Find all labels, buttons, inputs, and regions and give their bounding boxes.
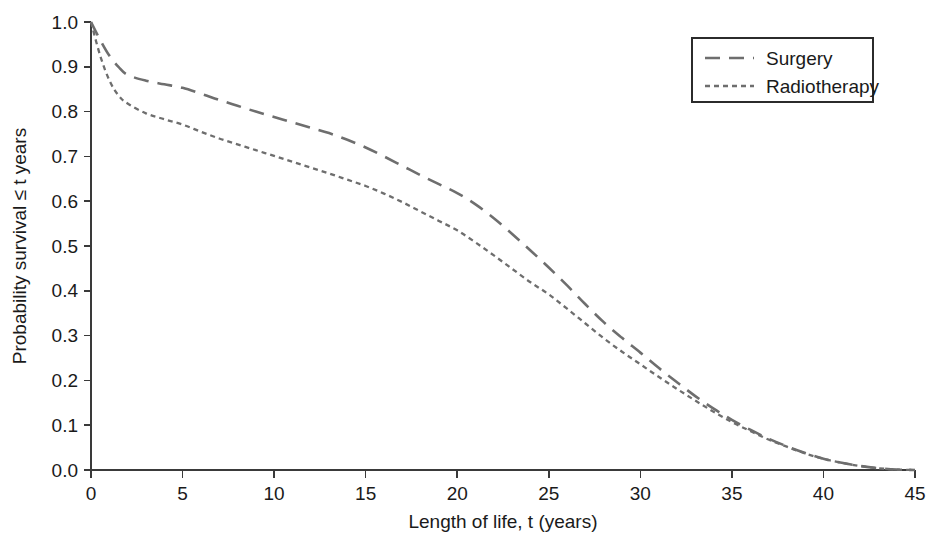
y-tick-label: 0.3	[52, 325, 78, 346]
x-tick-label: 35	[721, 483, 742, 504]
x-tick-label: 45	[904, 483, 925, 504]
x-tick-label: 40	[813, 483, 834, 504]
y-tick-label: 0.8	[52, 101, 78, 122]
x-tick-label: 25	[538, 483, 559, 504]
y-tick-label: 0.7	[52, 146, 78, 167]
y-tick-label: 1.0	[52, 12, 78, 33]
x-tick-label: 5	[177, 483, 188, 504]
legend-label-surgery: Surgery	[766, 48, 833, 69]
x-tick-label: 0	[86, 483, 97, 504]
survival-curve-chart: 0.00.10.20.30.40.50.60.70.80.91.0 051015…	[0, 0, 939, 553]
legend-label-radiotherapy: Radiotherapy	[766, 76, 880, 97]
x-tick-label: 10	[264, 483, 285, 504]
x-tick-label: 20	[447, 483, 468, 504]
y-tick-label: 0.1	[52, 415, 78, 436]
x-tick-label: 15	[355, 483, 376, 504]
y-tick-label: 0.6	[52, 191, 78, 212]
y-tick-label: 0.9	[52, 56, 78, 77]
y-tick-label: 0.5	[52, 236, 78, 257]
x-axis-title: Length of life, t (years)	[408, 511, 597, 532]
y-tick-label: 0.2	[52, 370, 78, 391]
chart-page: 0.00.10.20.30.40.50.60.70.80.91.0 051015…	[0, 0, 939, 553]
y-axis-title: Probability survival ≤ t years	[9, 128, 30, 364]
y-tick-label: 0.4	[52, 280, 79, 301]
y-tick-label: 0.0	[52, 460, 78, 481]
x-tick-label: 30	[630, 483, 651, 504]
